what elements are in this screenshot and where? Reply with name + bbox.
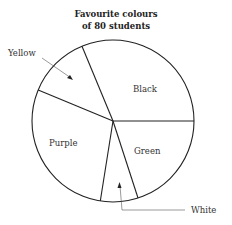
white-leader-line: [120, 186, 185, 210]
label-yellow: Yellow: [7, 48, 36, 58]
slice-boundary-line: [100, 121, 113, 201]
slice-boundary-line: [113, 121, 138, 198]
label-white: White: [191, 205, 216, 215]
label-purple: Purple: [49, 138, 77, 148]
pie-chart: Black Yellow Purple Green White: [0, 0, 232, 225]
label-black: Black: [133, 84, 158, 94]
label-green: Green: [134, 146, 161, 156]
white-arrowhead-icon: [118, 182, 122, 188]
